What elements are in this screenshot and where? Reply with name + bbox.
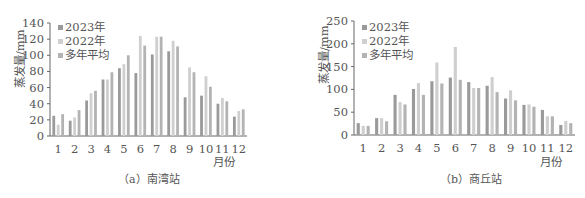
bar [134, 73, 137, 136]
bar [422, 95, 425, 135]
x-axis-unit-label: 月份 [540, 153, 562, 169]
chart-caption: （b）商丘站 [440, 170, 502, 186]
bar [225, 101, 228, 136]
x-tick-label: 2 [378, 141, 385, 155]
x-tick-label: 1 [360, 141, 367, 155]
bar [459, 80, 462, 135]
bar [160, 37, 163, 136]
x-axis-unit-label: 月份 [213, 153, 235, 169]
bar [496, 92, 499, 135]
bar [440, 83, 443, 135]
bar [514, 100, 517, 135]
x-tick-label: 4 [104, 142, 111, 156]
y-tick-label: 80 [29, 64, 44, 78]
legend-item-average: 多年平均 [58, 48, 109, 62]
x-tick-label: 4 [415, 141, 422, 155]
bar [412, 89, 415, 135]
bar [209, 87, 212, 136]
y-tick-label: 0 [341, 128, 348, 142]
x-tick-label: 8 [169, 142, 176, 156]
bar [417, 83, 420, 135]
bar [504, 99, 507, 135]
x-tick-label: 7 [153, 142, 160, 156]
bar [394, 95, 397, 135]
bar [233, 117, 236, 136]
bar [569, 123, 572, 135]
bar [522, 105, 525, 135]
bar [491, 77, 494, 135]
bar [139, 36, 142, 136]
x-tick-label: 7 [470, 141, 477, 155]
bar [403, 104, 406, 135]
bar [167, 51, 170, 136]
chart-panel-shangqiu: 050100150200250123456789101112 蒸发量/mm 20… [295, 0, 585, 198]
bar [541, 110, 544, 135]
bar [69, 121, 72, 136]
x-tick-label: 6 [137, 142, 144, 156]
bar [193, 72, 196, 136]
legend-swatch-2022 [58, 39, 63, 44]
chart-legend: 2023年 2022年 多年平均 [58, 20, 109, 62]
bar [430, 81, 433, 135]
bar [127, 55, 130, 136]
bar [237, 111, 240, 136]
x-tick-label: 5 [433, 141, 440, 155]
bar [509, 90, 512, 135]
y-tick-label: 60 [29, 81, 44, 95]
y-tick-label: 40 [29, 97, 44, 111]
bar [61, 114, 64, 136]
x-tick-label: 2 [71, 142, 78, 156]
legend-item-2022: 2022年 [58, 34, 109, 48]
bar [102, 80, 105, 137]
bar [486, 86, 489, 135]
x-tick-label: 3 [396, 141, 403, 155]
bar [385, 121, 388, 135]
bar [172, 41, 175, 136]
legend-swatch-average [58, 53, 63, 58]
bar [205, 76, 208, 136]
bar [467, 82, 470, 135]
legend-item-2023: 2023年 [58, 20, 109, 34]
bar [362, 126, 365, 135]
bar [143, 46, 146, 136]
bar [564, 121, 567, 135]
bar [57, 125, 60, 136]
bar [375, 118, 378, 135]
bar [52, 116, 55, 136]
legend-swatch-2023 [362, 25, 367, 30]
bar [184, 97, 187, 136]
bar-chart-nanwan: 020406080100120140123456789101112 [0, 0, 292, 198]
y-axis-label: 蒸发量/mm [11, 29, 27, 88]
chart-caption: （a）南湾站 [118, 170, 180, 186]
y-tick-label: 50 [333, 105, 348, 119]
chart-legend: 2023年 2022年 多年平均 [362, 20, 413, 62]
legend-swatch-average [362, 53, 367, 58]
y-tick-label: 100 [326, 82, 348, 96]
bar [532, 107, 535, 135]
y-tick-label: 0 [37, 129, 44, 143]
bar [73, 117, 76, 136]
bar [472, 88, 475, 135]
bar [477, 88, 480, 135]
bar [217, 104, 220, 136]
x-tick-label: 10 [522, 141, 537, 155]
bar [200, 96, 203, 136]
x-tick-label: 9 [186, 142, 193, 156]
bar [118, 68, 121, 136]
bar [90, 93, 93, 136]
legend-swatch-2022 [362, 39, 367, 44]
x-tick-label: 8 [488, 141, 495, 155]
legend-item-2023: 2023年 [362, 20, 413, 34]
bar [94, 91, 97, 136]
bar [106, 80, 109, 137]
bar [78, 110, 81, 136]
bar [110, 72, 113, 136]
bar [122, 64, 125, 136]
bar [380, 118, 383, 135]
legend-swatch-2023 [58, 25, 63, 30]
bar [151, 54, 154, 136]
legend-item-average: 多年平均 [362, 48, 413, 62]
bar [357, 123, 360, 135]
bar [435, 62, 438, 135]
bar [527, 104, 530, 135]
